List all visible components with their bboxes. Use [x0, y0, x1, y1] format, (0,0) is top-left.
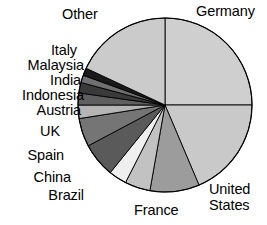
pie-label-other: Other — [62, 7, 98, 22]
pie-label-united-states-line2: States — [209, 197, 250, 213]
pie-label-france: France — [134, 203, 179, 218]
pie-label-india: India — [50, 73, 81, 88]
pie-label-united-states-line1: United — [209, 181, 250, 197]
pie-label-germany: Germany — [196, 4, 255, 19]
pie-slice-germany[interactable] — [165, 18, 252, 105]
pie-label-china: China — [34, 170, 71, 185]
pie-label-austria: Austria — [37, 103, 81, 118]
pie-chart-figure: Germany United States France Brazil Chin… — [0, 0, 267, 225]
pie-label-malaysia: Malaysia — [28, 58, 84, 73]
pie-label-spain: Spain — [27, 148, 64, 163]
pie-label-united-states: United States — [209, 181, 250, 213]
pie-label-brazil: Brazil — [48, 188, 84, 203]
pie-label-indonesia: Indonesia — [22, 88, 84, 103]
pie-label-uk: UK — [40, 124, 60, 139]
pie-label-italy: Italy — [51, 43, 77, 58]
